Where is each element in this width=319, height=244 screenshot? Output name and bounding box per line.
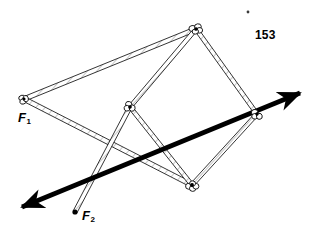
label-f1-subscript: 1 [26,117,30,126]
label-f2: F2 [82,209,94,222]
figure-number-label: 153 [255,29,276,41]
label-f2-base: F [82,208,90,223]
label-f2-subscript: 2 [90,215,94,224]
label-f1-base: F [18,110,26,125]
force-point-f2-dot [72,209,77,214]
page-speck-mark [247,11,250,14]
figure-canvas: F1 F2 153 [0,0,319,244]
label-f1: F1 [18,111,30,124]
